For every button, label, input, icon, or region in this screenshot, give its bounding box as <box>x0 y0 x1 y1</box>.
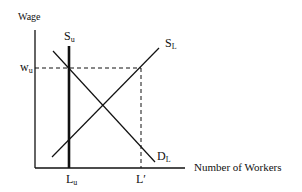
labor-demand-label: DL <box>157 150 171 164</box>
lprime-label: L′ <box>136 173 146 185</box>
x-axis-label: Number of Workers <box>194 162 282 173</box>
lu-label: Lu <box>66 173 77 187</box>
labor-supply-label: SL <box>165 37 177 51</box>
union-wage-label: wu <box>20 61 33 75</box>
y-axis-label: Wage <box>18 12 41 22</box>
union-supply-label: Su <box>64 30 75 44</box>
